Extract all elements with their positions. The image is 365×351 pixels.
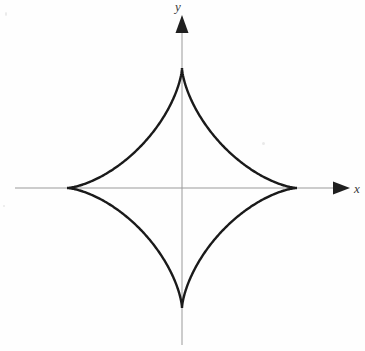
x-axis-label: x [353, 181, 360, 196]
y-axis-arrow-icon [176, 15, 189, 33]
plot-canvas: y x [0, 0, 365, 351]
y-axis-label: y [173, 0, 181, 14]
x-axis-arrow-icon [333, 182, 350, 195]
astroid-figure: y x [0, 0, 365, 351]
